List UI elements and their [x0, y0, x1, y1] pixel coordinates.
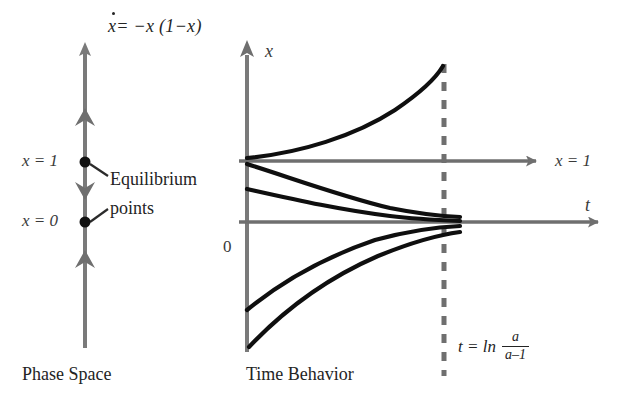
phase-space-panel	[75, 42, 108, 348]
leader-line-equilibrium-one	[90, 164, 108, 176]
phase-space-caption: Phase Space	[22, 365, 111, 383]
blowup-formula-denominator: a–1	[502, 347, 529, 363]
equilibrium-annotation-line2: points	[110, 199, 154, 217]
equation-rhs: = −x (1−x)	[116, 16, 201, 36]
x-axis-arrowhead	[240, 40, 254, 57]
equilibrium-dot-x-equals-1	[80, 157, 91, 168]
x-axis-label: x	[265, 42, 273, 60]
leader-line-equilibrium-zero	[90, 209, 108, 222]
governing-equation: x= −x (1−x)	[108, 17, 202, 35]
equation-xdot: x	[108, 16, 116, 36]
blowup-formula-numerator: a	[509, 330, 522, 346]
reference-line-label-x-equals-1: x = 1	[555, 152, 591, 169]
equilibrium-dot-x-equals-0	[80, 217, 91, 228]
time-behavior-caption: Time Behavior	[246, 365, 354, 383]
phase-label-x-equals-0: x = 0	[22, 212, 58, 229]
blowup-time-formula: t = ln a a–1	[458, 330, 529, 363]
phase-portrait-figure: x= −x (1−x) x = 1 x = 0 Equilibrium poin…	[0, 0, 624, 411]
blowup-formula-lhs: t = ln	[458, 338, 496, 355]
trajectory-blowup	[247, 66, 443, 158]
equilibrium-annotation-line1: Equilibrium	[110, 170, 197, 188]
phase-label-x-equals-1: x = 1	[22, 152, 58, 169]
time-behavior-panel	[239, 40, 598, 376]
figure-vector-layer	[0, 0, 624, 411]
blowup-formula-fraction: a a–1	[502, 330, 529, 363]
t-axis-label: t	[585, 196, 590, 214]
origin-label-zero: 0	[223, 238, 232, 255]
